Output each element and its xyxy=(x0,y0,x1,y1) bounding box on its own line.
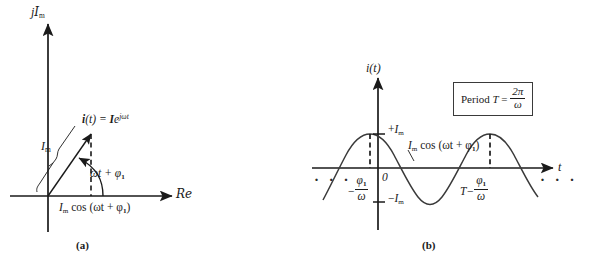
magnitude-sub-m: m xyxy=(45,145,51,154)
period-annotation-box: Period T = 2π ω xyxy=(453,82,533,116)
real-projection-label: Im cos (ωt + φ1) xyxy=(59,202,130,215)
second-peak-time-label: T− φ1 ω xyxy=(460,174,488,202)
origin-label: 0 xyxy=(382,172,388,184)
period-denominator: ω xyxy=(510,98,525,111)
negative-amplitude-label: −Im xyxy=(388,193,404,206)
projection-cos: cos (ωt + φ xyxy=(68,201,123,213)
phasor-magnitude-label: Im xyxy=(41,140,51,154)
peak-sub-m: m xyxy=(398,129,404,137)
panel-a-tag: (a) xyxy=(76,240,89,251)
period-fraction: 2π ω xyxy=(510,86,525,111)
angle-sub-1: 1 xyxy=(121,173,125,181)
waveform-expression-label: Im cos (ωt + φ1) xyxy=(408,140,479,153)
second-peak-fraction: φ1 ω xyxy=(474,174,488,202)
figure-container: jIm Re i(t) = Iejωt Im ωt + φ1 Im cos (ω… xyxy=(0,0,602,264)
panel-b-tag: (b) xyxy=(422,240,435,251)
imaginary-axis-label: jIm xyxy=(31,6,45,20)
magnitude-brace xyxy=(37,126,75,192)
waveform-cos: cos (ωt + φ xyxy=(417,139,472,151)
panel-a-drawing xyxy=(0,0,300,264)
angle-expression: ωt + φ xyxy=(90,167,121,179)
right-ellipsis: · · · xyxy=(540,172,578,189)
second-peak-numerator: φ1 xyxy=(474,174,488,189)
phasor-exponent: jωt xyxy=(119,112,129,121)
panel-a-phasor-diagram: jIm Re i(t) = Iejωt Im ωt + φ1 Im cos (ω… xyxy=(0,0,300,264)
real-axis-label: Re xyxy=(176,188,192,200)
first-peak-fraction: φ1 ω xyxy=(355,174,369,202)
period-word: Period xyxy=(461,93,492,105)
first-peak-numerator: φ1 xyxy=(355,174,369,189)
period-equals: = xyxy=(499,93,511,105)
left-ellipsis: · · · xyxy=(314,172,352,189)
first-peak-denominator: ω xyxy=(355,189,369,202)
waveform-paren: ) xyxy=(476,139,480,151)
phasor-arg: (t) = xyxy=(85,113,109,125)
phasor-expression-label: i(t) = Iejωt xyxy=(82,113,129,125)
second-peak-prefix: T− xyxy=(460,185,474,197)
panel-b-drawing xyxy=(300,0,602,264)
trough-sub-m: m xyxy=(398,198,404,206)
first-peak-sub-1: 1 xyxy=(363,180,367,188)
current-axis-label: i(t) xyxy=(366,62,381,74)
projection-paren: ) xyxy=(127,201,131,213)
second-peak-denominator: ω xyxy=(474,189,488,202)
phase-angle-label: ωt + φ1 xyxy=(90,168,125,181)
phasor-vector xyxy=(48,134,91,196)
period-numerator: 2π xyxy=(510,86,525,98)
positive-amplitude-label: +Im xyxy=(388,124,404,137)
imag-label-sub-m: m xyxy=(39,11,45,20)
second-peak-sub-1: 1 xyxy=(483,180,487,188)
panel-b-waveform-diagram: i(t) t +Im −Im 0 Im cos (ωt + φ1) − φ1 ω… xyxy=(300,0,602,264)
